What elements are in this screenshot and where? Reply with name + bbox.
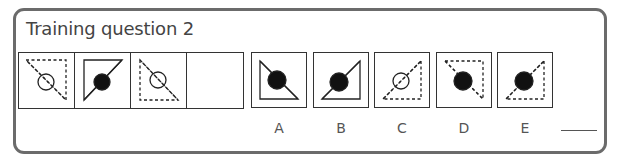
sequence-cell-2	[75, 53, 131, 108]
option-c[interactable]	[374, 52, 430, 108]
figure-glyph	[437, 53, 491, 107]
option-d[interactable]	[436, 52, 492, 108]
figure-glyph	[20, 54, 74, 108]
filled-circle	[94, 74, 110, 90]
figure-glyph	[252, 53, 306, 107]
filled-circle	[330, 73, 348, 91]
figure-glyph	[498, 53, 552, 107]
figure-glyph	[76, 54, 130, 108]
sequence-cell-missing	[187, 53, 243, 108]
sequence-cell-1	[19, 53, 75, 108]
figure-glyph	[314, 53, 368, 107]
figure-glyph	[375, 53, 429, 107]
option-c-label: C	[374, 120, 430, 136]
option-a[interactable]	[251, 52, 307, 108]
figure-glyph	[188, 54, 242, 108]
answer-blank[interactable]	[561, 130, 597, 131]
option-a-label: A	[251, 120, 307, 136]
sequence-cell-3	[131, 53, 187, 108]
filled-circle	[268, 71, 286, 89]
option-b[interactable]	[313, 52, 369, 108]
hollow-circle	[38, 74, 54, 90]
hollow-circle	[150, 72, 166, 88]
question-sequence	[18, 52, 244, 109]
option-e[interactable]	[497, 52, 553, 108]
option-b-label: B	[313, 120, 369, 136]
option-e-label: E	[497, 120, 553, 136]
hollow-circle	[393, 73, 409, 89]
filled-circle	[515, 72, 533, 90]
filled-circle	[454, 72, 472, 90]
option-d-label: D	[436, 120, 492, 136]
figure-glyph	[132, 54, 186, 108]
question-title: Training question 2	[26, 18, 194, 39]
